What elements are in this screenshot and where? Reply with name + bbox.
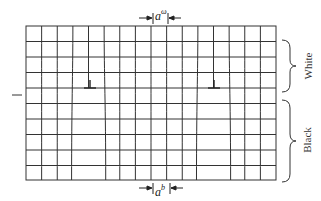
bottom-spacing-sup: b xyxy=(161,183,165,192)
top-spacing-sup: ω xyxy=(161,7,167,16)
lattice-grid xyxy=(26,26,276,180)
top-spacing-label: aω xyxy=(155,8,167,22)
bottom-spacing-label: ab xyxy=(155,184,165,198)
lattice-diagram xyxy=(0,0,321,201)
white-brace xyxy=(282,40,296,92)
black-brace xyxy=(282,100,296,182)
black-region-label: Black xyxy=(301,122,313,158)
white-region-label: White xyxy=(302,49,314,83)
